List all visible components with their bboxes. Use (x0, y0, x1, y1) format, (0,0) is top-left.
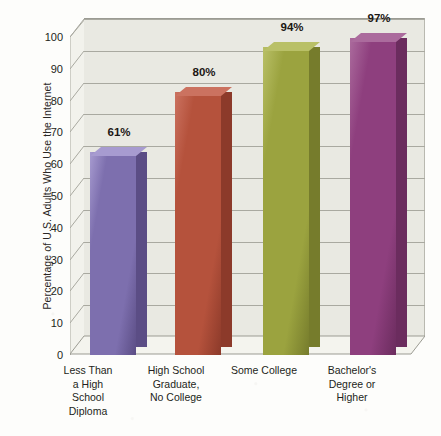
category-line: a High (40, 378, 136, 392)
bar-value-label: 94% (255, 21, 329, 33)
bar-top-face (90, 143, 147, 152)
bar-side-face (221, 92, 232, 347)
category-line: Some College (216, 364, 312, 378)
gridline-depth-tick (70, 146, 85, 164)
bar-top-face (350, 29, 407, 38)
bar-side-face (136, 152, 147, 347)
y-axis-tick-label: 70 (29, 126, 63, 138)
bar-value-label: 61% (82, 126, 156, 138)
bar-top-face (263, 38, 320, 47)
gridline-depth-tick (70, 305, 85, 323)
bar (175, 83, 232, 355)
bar-side-face (309, 47, 320, 347)
y-axis-tick-label: 0 (29, 349, 63, 361)
x-axis-category-label: Some College (216, 364, 312, 378)
gridline-depth-tick (70, 51, 85, 69)
y-axis-tick-label: 50 (29, 190, 63, 202)
bar-front-face (263, 47, 309, 355)
category-line: Higher (304, 391, 400, 405)
y-axis-tick-label: 80 (29, 95, 63, 107)
category-line: Diploma (40, 405, 136, 419)
chart-figure: Percentage of U.S. Adults Who Use the In… (0, 0, 441, 436)
gridline-depth-tick (70, 273, 85, 291)
category-line: High School (128, 364, 224, 378)
x-axis-category-label: Less Thana HighSchoolDiploma (40, 364, 136, 418)
x-axis-category-label: High SchoolGraduate,No College (128, 364, 224, 405)
category-line: Degree or (304, 378, 400, 392)
bar-front-face (175, 92, 221, 355)
y-axis-tick-label: 40 (29, 222, 63, 234)
bar-side-face (396, 38, 407, 347)
gridline-depth-tick (70, 210, 85, 228)
plot-area: 61%80%94%97% (70, 18, 425, 355)
y-axis-tick-label: 10 (29, 317, 63, 329)
gridline-depth-tick (70, 242, 85, 260)
bar (90, 143, 147, 355)
y-axis-tick-label: 90 (29, 63, 63, 75)
bar-front-face (350, 38, 396, 355)
category-line: Less Than (40, 364, 136, 378)
x-axis-category-label: Bachelor'sDegree orHigher (304, 364, 400, 405)
bar-value-label: 97% (342, 12, 416, 24)
bar (350, 29, 407, 355)
category-line: No College (128, 391, 224, 405)
category-line: Graduate, (128, 378, 224, 392)
y-axis-tick-label: 100 (29, 31, 63, 43)
category-line: School (40, 391, 136, 405)
gridline-depth-tick (70, 178, 85, 196)
gridline-depth-tick (70, 19, 85, 37)
gridline-depth-tick (70, 83, 85, 101)
category-line: Bachelor's (304, 364, 400, 378)
y-axis-tick-label: 20 (29, 285, 63, 297)
bar-top-face (175, 83, 232, 92)
y-axis-tick-label: 30 (29, 254, 63, 266)
bar-value-label: 80% (167, 66, 241, 78)
bar (263, 38, 320, 355)
y-axis-tick-label: 60 (29, 158, 63, 170)
bar-front-face (90, 152, 136, 355)
